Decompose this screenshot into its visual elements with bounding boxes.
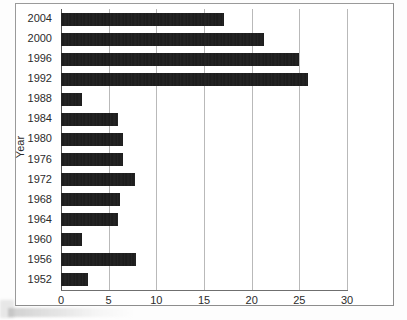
x-axis-tick-label: 25 — [293, 294, 305, 306]
scanned-page-background: Year 20042000199619921988198419801976197… — [0, 0, 407, 320]
x-gridline — [156, 9, 157, 290]
x-axis-tick-label: 30 — [341, 294, 353, 306]
y-axis-tick-label: 1968 — [28, 193, 52, 206]
x-axis-line — [61, 290, 348, 291]
x-gridline — [299, 9, 300, 290]
x-gridline — [109, 9, 110, 290]
x-axis-tick-label: 10 — [150, 294, 162, 306]
bar — [61, 213, 118, 226]
bar — [61, 153, 123, 166]
x-gridline — [61, 9, 62, 290]
y-axis-tick-label: 1972 — [28, 173, 52, 186]
x-axis-tick-label: 20 — [246, 294, 258, 306]
y-axis-tick-label: 1992 — [28, 72, 52, 85]
bar — [61, 53, 299, 66]
x-axis-tick-label: 15 — [198, 294, 210, 306]
y-axis-tick-labels: 2004200019961992198819841980197619721968… — [0, 9, 58, 290]
y-axis-tick-label: 1976 — [28, 153, 52, 166]
x-axis-tick-label: 5 — [106, 294, 112, 306]
scan-artifact-bottom — [8, 308, 138, 317]
y-axis-tick-label: 1996 — [28, 52, 52, 65]
y-axis-tick-label: 1952 — [28, 273, 52, 286]
bar — [61, 133, 123, 146]
y-axis-tick-label: 1960 — [28, 233, 52, 246]
bar — [61, 73, 308, 86]
x-gridline — [204, 9, 205, 290]
plot-area — [61, 9, 347, 290]
bar — [61, 33, 264, 46]
y-axis-tick-label: 2000 — [28, 32, 52, 45]
x-gridline — [252, 9, 253, 290]
bar — [61, 93, 82, 106]
bar — [61, 253, 136, 266]
bar — [61, 233, 82, 246]
y-axis-tick-label: 2004 — [28, 12, 52, 25]
bar — [61, 273, 88, 286]
bar — [61, 193, 120, 206]
y-axis-tick-label: 1980 — [28, 132, 52, 145]
y-axis-tick-label: 1956 — [28, 253, 52, 266]
x-axis-tick-label: 0 — [58, 294, 64, 306]
y-axis-tick-label: 1988 — [28, 92, 52, 105]
bar — [61, 113, 118, 126]
x-gridline — [347, 9, 348, 290]
bar — [61, 13, 224, 26]
y-axis-tick-label: 1964 — [28, 213, 52, 226]
y-axis-tick-label: 1984 — [28, 112, 52, 125]
bar — [61, 173, 135, 186]
